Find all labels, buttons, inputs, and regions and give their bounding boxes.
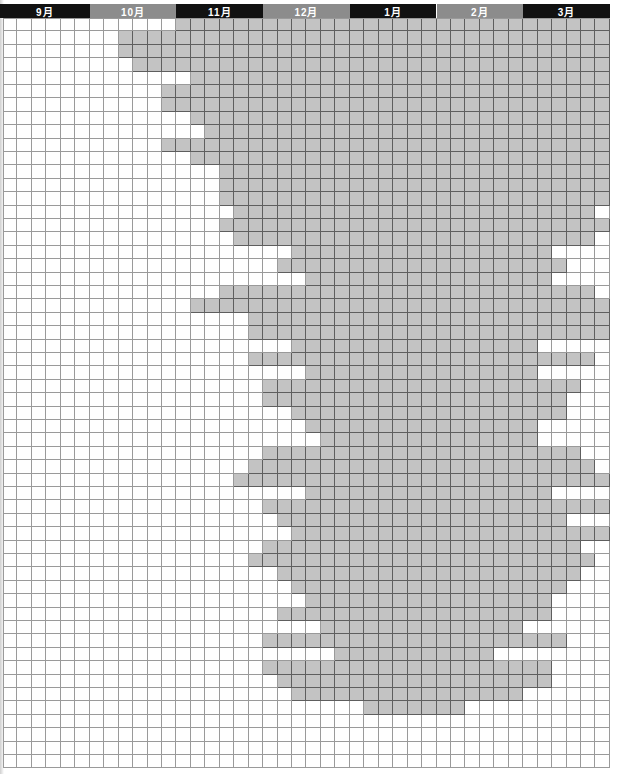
grid-cell-filled [234, 179, 249, 192]
grid-cell [509, 715, 523, 728]
grid-cell [191, 715, 205, 728]
grid-cell-filled [278, 541, 292, 554]
grid-cell [46, 179, 61, 192]
grid-cell-filled [437, 460, 451, 474]
grid-cell-filled [379, 31, 393, 45]
grid-cell-filled [509, 460, 523, 474]
grid-cell [61, 675, 75, 688]
grid-cell [205, 554, 220, 567]
grid-cell-filled [263, 165, 278, 179]
grid-cell-filled [162, 45, 176, 58]
grid-cell-filled [263, 353, 278, 366]
grid-cell [306, 701, 321, 715]
grid-cell-filled [205, 18, 220, 31]
grid-cell-filled [119, 45, 133, 58]
grid-cell-filled [422, 621, 437, 634]
grid-cell [32, 18, 46, 31]
grid-cell-filled [480, 567, 494, 581]
grid-cell-filled [523, 232, 538, 246]
grid-cell-filled [393, 554, 408, 567]
grid-cell-filled [451, 594, 465, 608]
grid-cell [176, 567, 191, 581]
grid-cell-filled [552, 353, 567, 366]
grid-cell-filled [263, 393, 278, 407]
grid-cell [32, 85, 46, 98]
grid-cell-filled [220, 152, 234, 165]
grid-cell [567, 581, 581, 594]
grid-cell-filled [321, 85, 335, 98]
grid-cell [119, 487, 133, 500]
grid-cell [46, 232, 61, 246]
grid-cell [249, 701, 263, 715]
grid-cell-filled [494, 232, 509, 246]
grid-cell [32, 554, 46, 567]
grid-cell [393, 715, 408, 728]
grid-cell-filled [523, 31, 538, 45]
grid-cell-filled [552, 447, 567, 460]
grid-cell-filled [595, 500, 610, 514]
grid-cell-filled [451, 58, 465, 72]
grid-cell [263, 742, 278, 755]
grid-cell [205, 661, 220, 675]
grid-cell [595, 728, 610, 742]
grid-cell-filled [422, 407, 437, 420]
grid-cell-filled [379, 192, 393, 206]
grid-cell [32, 98, 46, 112]
grid-cell-filled [480, 581, 494, 594]
grid-cell-filled [393, 433, 408, 447]
grid-cell-filled [393, 299, 408, 313]
grid-cell-filled [234, 192, 249, 206]
grid-cell [220, 661, 234, 675]
grid-cell-filled [379, 527, 393, 541]
grid-cell-filled [567, 299, 581, 313]
grid-cell [75, 206, 90, 219]
grid-cell [90, 688, 104, 701]
grid-cell-filled [523, 393, 538, 407]
grid-cell-filled [278, 661, 292, 675]
grid-cell-filled [494, 554, 509, 567]
grid-cell-filled [379, 675, 393, 688]
grid-cell-filled [552, 554, 567, 567]
grid-cell [17, 45, 32, 58]
grid-cell [46, 554, 61, 567]
grid-cell [176, 259, 191, 273]
grid-cell-filled [437, 353, 451, 366]
grid-cell [46, 608, 61, 621]
grid-cell-filled [567, 98, 581, 112]
grid-cell [133, 18, 148, 31]
grid-cell [61, 514, 75, 527]
grid-cell-filled [437, 125, 451, 139]
grid-cell-filled [408, 125, 422, 139]
grid-cell-filled [379, 487, 393, 500]
grid-cell-filled [422, 165, 437, 179]
grid-cell-filled [494, 608, 509, 621]
grid-cell [17, 447, 32, 460]
grid-cell [249, 742, 263, 755]
grid-cell-filled [494, 661, 509, 675]
grid-cell [3, 380, 17, 393]
grid-cell-filled [437, 474, 451, 487]
grid-cell [90, 286, 104, 299]
grid-cell-filled [538, 474, 552, 487]
grid-cell [234, 340, 249, 353]
grid-cell-filled [523, 514, 538, 527]
grid-cell [581, 581, 595, 594]
grid-cell-filled [306, 554, 321, 567]
grid-cell-filled [379, 139, 393, 152]
grid-cell-filled [148, 31, 162, 45]
grid-cell [75, 380, 90, 393]
grid-cell-filled [364, 353, 379, 366]
grid-cell-filled [451, 393, 465, 407]
grid-cell-filled [422, 232, 437, 246]
grid-cell-filled [595, 85, 610, 98]
grid-cell-filled [437, 393, 451, 407]
grid-cell-filled [205, 58, 220, 72]
grid-cell [104, 299, 119, 313]
grid-cell [17, 487, 32, 500]
grid-cell [494, 701, 509, 715]
grid-cell [581, 634, 595, 648]
grid-cell-filled [523, 594, 538, 608]
grid-cell [263, 675, 278, 688]
grid-cell [61, 259, 75, 273]
grid-cell [104, 474, 119, 487]
